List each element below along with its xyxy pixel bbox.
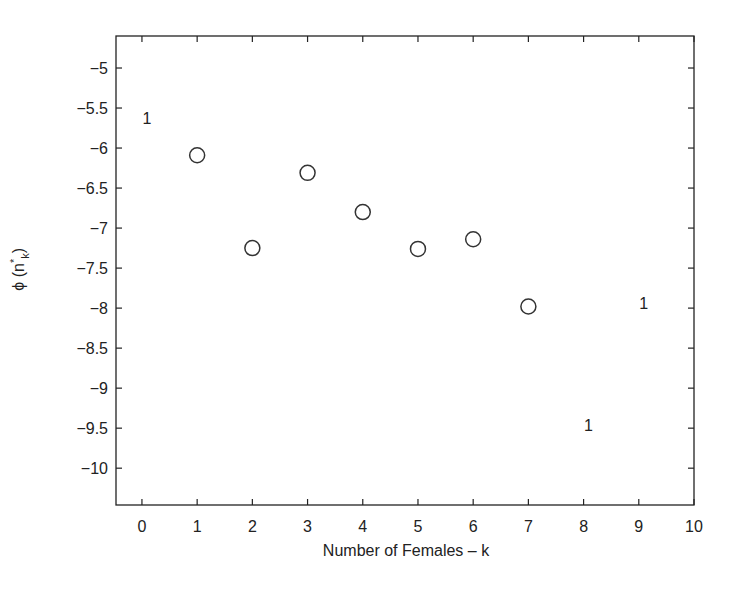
circle-marker bbox=[355, 205, 370, 220]
x-tick-label: 5 bbox=[414, 518, 423, 535]
y-tick-label: −7 bbox=[90, 220, 108, 237]
y-tick-label: −5 bbox=[90, 60, 108, 77]
y-tick-label: −10 bbox=[81, 460, 108, 477]
y-tick-label: −7.5 bbox=[76, 260, 108, 277]
y-axis-title-sub: k bbox=[19, 253, 31, 259]
circle-marker bbox=[190, 148, 205, 163]
y-tick-label: −8 bbox=[90, 300, 108, 317]
y-tick-label: −6 bbox=[90, 140, 108, 157]
text-marker: 1 bbox=[639, 295, 648, 312]
data-points: 111 bbox=[142, 110, 648, 434]
x-tick-label: 2 bbox=[248, 518, 257, 535]
y-tick-label: −6.5 bbox=[76, 180, 108, 197]
circle-marker bbox=[410, 241, 425, 256]
text-marker: 1 bbox=[584, 417, 593, 434]
circle-marker bbox=[245, 241, 260, 256]
chart-canvas: 012345678910−5−5.5−6−6.5−7−7.5−8−8.5−9−9… bbox=[0, 0, 735, 590]
y-axis-title: ϕ (n*k) bbox=[8, 248, 31, 291]
circle-marker bbox=[466, 232, 481, 247]
y-tick-label: −9 bbox=[90, 380, 108, 397]
x-tick-label: 10 bbox=[685, 518, 703, 535]
x-tick-label: 1 bbox=[193, 518, 202, 535]
axes-frame bbox=[116, 36, 694, 505]
y-axis-title-phi: ϕ (n bbox=[10, 263, 27, 291]
x-tick-label: 8 bbox=[579, 518, 588, 535]
y-axis-title-close: ) bbox=[10, 248, 27, 253]
x-tick-label: 0 bbox=[137, 518, 146, 535]
x-tick-label: 9 bbox=[634, 518, 643, 535]
y-tick-label: −9.5 bbox=[76, 420, 108, 437]
x-tick-label: 7 bbox=[524, 518, 533, 535]
x-axis-title: Number of Females – k bbox=[117, 542, 695, 560]
y-tick-label: −5.5 bbox=[76, 100, 108, 117]
x-tick-label: 6 bbox=[469, 518, 478, 535]
x-tick-label: 4 bbox=[358, 518, 367, 535]
circle-marker bbox=[300, 165, 315, 180]
circle-marker bbox=[521, 299, 536, 314]
text-marker: 1 bbox=[142, 110, 151, 127]
y-tick-label: −8.5 bbox=[76, 340, 108, 357]
y-axis-title-sup: * bbox=[8, 259, 20, 263]
axis-ticks: 012345678910−5−5.5−6−6.5−7−7.5−8−8.5−9−9… bbox=[76, 36, 703, 535]
x-tick-label: 3 bbox=[303, 518, 312, 535]
